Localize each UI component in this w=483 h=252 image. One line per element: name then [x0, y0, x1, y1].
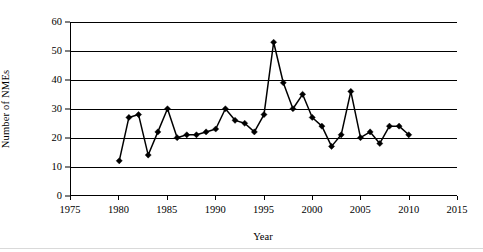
x-tick-label-1980: 1980	[108, 205, 129, 216]
series-line-nmes	[119, 42, 408, 161]
x-tick-mark-2000	[312, 196, 313, 200]
x-tick-mark-1990	[215, 196, 216, 200]
x-tick-mark-2005	[360, 196, 361, 200]
x-tick-label-2005: 2005	[350, 205, 371, 216]
data-point-1989	[203, 129, 209, 135]
chart-figure: Number of NMEs 0102030405060 19751980198…	[0, 0, 483, 252]
x-tick-mark-2015	[457, 196, 458, 200]
data-point-1990	[213, 126, 219, 132]
y-axis-ticks: 0102030405060	[0, 22, 70, 196]
x-tick-mark-1985	[167, 196, 168, 200]
data-point-1981	[126, 114, 132, 120]
data-point-1995	[261, 111, 267, 117]
x-tick-mark-1980	[118, 196, 119, 200]
x-tick-label-1985: 1985	[156, 205, 177, 216]
bottom-divider	[0, 248, 483, 249]
data-point-1986	[174, 135, 180, 141]
data-point-1988	[193, 132, 199, 138]
data-point-1982	[135, 111, 141, 117]
data-point-1980	[116, 158, 122, 164]
y-tick-label-20: 20	[52, 133, 63, 144]
data-point-1985	[164, 106, 170, 112]
x-tick-mark-1995	[264, 196, 265, 200]
y-tick-label-0: 0	[57, 191, 62, 202]
data-point-1997	[280, 80, 286, 86]
y-tick-label-40: 40	[52, 75, 63, 86]
data-point-1983	[145, 152, 151, 158]
y-tick-label-50: 50	[52, 46, 63, 57]
x-tick-label-2000: 2000	[301, 205, 322, 216]
x-tick-label-1990: 1990	[205, 205, 226, 216]
y-tick-label-60: 60	[52, 17, 63, 28]
x-tick-mark-2010	[409, 196, 410, 200]
data-point-2008	[386, 123, 392, 129]
x-tick-label-2015: 2015	[447, 205, 468, 216]
x-tick-label-1975: 1975	[60, 205, 81, 216]
series-nmes	[71, 22, 457, 196]
x-tick-mark-1975	[70, 196, 71, 200]
data-point-1987	[184, 132, 190, 138]
x-axis-title: Year	[253, 231, 272, 242]
y-tick-label-30: 30	[52, 104, 63, 115]
x-axis-ticks: 197519801985199019952000200520102015	[70, 196, 457, 226]
x-tick-label-1995: 1995	[253, 205, 274, 216]
data-point-1996	[271, 39, 277, 45]
data-point-1984	[155, 129, 161, 135]
x-tick-label-2010: 2010	[398, 205, 419, 216]
y-tick-label-10: 10	[52, 162, 63, 173]
data-point-2004	[348, 88, 354, 94]
plot-area	[70, 22, 457, 196]
